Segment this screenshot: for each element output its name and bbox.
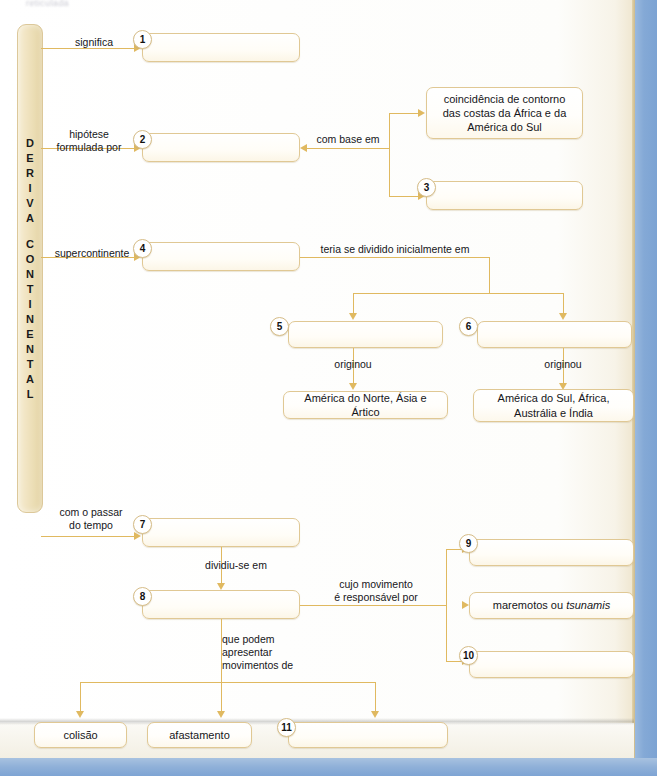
spine-letter: D (26, 136, 34, 151)
box-6-number: 6 (459, 317, 478, 336)
arrowhead-to-box8 (217, 583, 225, 590)
arrowhead-to-coincidencia (418, 109, 425, 117)
box-3-number: 3 (417, 178, 436, 197)
box-maremotos-text: maremotos ou tsunamis (493, 598, 610, 612)
connector-split-to-coincidencia (389, 113, 421, 114)
coincidencia-line-2: das costas da África e da (443, 107, 567, 119)
spine-letter: V (26, 196, 33, 211)
label-significa: significa (47, 36, 141, 49)
connector-fork-bar (353, 293, 490, 294)
box-8-number: 8 (133, 587, 152, 606)
box-7-number: 7 (133, 515, 152, 534)
box-5-number: 5 (270, 317, 289, 336)
arrowhead-to-afastamento (217, 711, 225, 718)
coincidencia-line-1: coincidência de contorno (444, 93, 566, 105)
spine-label: D E R I V A C O N T I N E N T A L (18, 25, 42, 512)
background-right (635, 0, 657, 776)
box-1-number: 1 (133, 30, 152, 49)
spine-letter: N (26, 267, 34, 282)
connector-split-to-box3 (389, 196, 421, 197)
box-afastamento[interactable]: afastamento (147, 722, 252, 748)
spine-letter: N (26, 342, 34, 357)
box-11[interactable] (288, 722, 448, 748)
label-com-base-em: com base em (302, 133, 394, 146)
arrowhead-to-box6 (559, 313, 567, 320)
box-america-sul-text: América do Sul, África,Austrália e Índia (498, 391, 610, 419)
label-originou-right: originou (533, 358, 593, 371)
spine-letter: L (27, 387, 34, 402)
box-7[interactable] (142, 518, 300, 547)
maremotos-prefix: maremotos ou (493, 599, 566, 611)
spine-letter: E (26, 151, 33, 166)
label-supercontinente: supercontinente (44, 247, 140, 260)
box-5[interactable] (288, 321, 443, 348)
box-colisao-text: colisão (63, 728, 97, 742)
label-hipotese-formulada-por: hipótese formulada por (37, 128, 141, 154)
spine-letter: T (27, 357, 34, 372)
spine-letter: I (28, 181, 31, 196)
box-afastamento-text: afastamento (169, 728, 230, 742)
connector-box8-to-right-fork (300, 605, 447, 606)
box-10[interactable] (469, 651, 634, 678)
connector-bottom-leg-afastamento (221, 682, 222, 713)
label-dividiu-se-em: dividiu-se em (191, 559, 281, 572)
arrowhead-to-america-norte (349, 383, 357, 390)
america-sul-line-1: América do Sul, África, (498, 392, 610, 404)
connector-right-fork-vertical (446, 549, 447, 661)
label-originou-left: originou (323, 358, 383, 371)
spine-letter: N (26, 312, 34, 327)
label-teria-se-dividido: teria se dividido inicialmente em (315, 243, 475, 256)
box-colisao[interactable]: colisão (34, 722, 127, 748)
connector-fork-left-leg (353, 293, 354, 315)
box-8[interactable] (142, 590, 300, 619)
label-com-o-passar-do-tempo: com o passar do tempo (44, 506, 138, 532)
connector-bottom-fork-bar (80, 682, 375, 683)
box-9-number: 9 (459, 534, 478, 553)
spine-letter: R (26, 166, 34, 181)
connector-spine-to-box7 (41, 536, 137, 537)
connector-fork-right-leg (563, 293, 564, 315)
box-america-norte-text: América do Norte, Ásia e Ártico (290, 391, 441, 419)
box-america-sul[interactable]: América do Sul, África,Austrália e Índia (473, 389, 634, 422)
connector-fork-bar-right (489, 293, 564, 294)
box-2[interactable] (142, 133, 300, 162)
arrowhead-to-maremotos (462, 601, 469, 609)
box-4[interactable] (142, 242, 300, 271)
spine-letter: C (26, 237, 34, 252)
connector-bottom-leg-box11 (375, 682, 376, 713)
connector-box2-to-split (307, 148, 389, 149)
spine-letter: I (28, 297, 31, 312)
connector-fork-drop (489, 257, 490, 293)
connector-split-vertical (389, 113, 390, 196)
spine-letter: A (26, 211, 34, 226)
box-11-number: 11 (277, 718, 296, 737)
america-sul-line-2: Austrália e Índia (514, 407, 593, 419)
spine-letter: A (26, 372, 34, 387)
spine-letter: E (26, 327, 33, 342)
coincidencia-line-3: América do Sul (467, 121, 542, 133)
arrowhead-to-box5 (349, 313, 357, 320)
cropped-top-text: reticulada (26, 0, 146, 9)
maremotos-emphasis: tsunamis (566, 599, 610, 611)
spine-letter: T (27, 282, 34, 297)
box-maremotos[interactable]: maremotos ou tsunamis (469, 592, 634, 619)
deriva-continental-spine: D E R I V A C O N T I N E N T A L (17, 24, 43, 513)
connector-bottom-leg-colisao (80, 682, 81, 713)
label-cujo-movimento: cujo movimento é responsável por (316, 578, 436, 604)
label-que-podem-apresentar: que podem apresentar movimentos de (222, 633, 332, 672)
arrowhead-to-box11 (371, 711, 379, 718)
box-2-number: 2 (133, 130, 152, 149)
box-coincidencia-text: coincidência de contornodas costas da Áf… (443, 92, 567, 134)
box-3[interactable] (426, 181, 583, 210)
box-1[interactable] (142, 33, 300, 62)
connector-box4-to-fork (300, 257, 490, 258)
box-4-number: 4 (133, 239, 152, 258)
spine-letter: O (26, 252, 35, 267)
box-coincidencia-contorno[interactable]: coincidência de contornodas costas da Áf… (426, 87, 583, 139)
box-america-norte[interactable]: América do Norte, Ásia e Ártico (283, 391, 448, 419)
box-10-number: 10 (459, 646, 478, 665)
box-9[interactable] (469, 539, 634, 566)
box-6[interactable] (477, 321, 632, 348)
diagram-page: reticulada D E R I V A C O N T I N E N T… (0, 0, 657, 776)
background-bottom (0, 758, 657, 776)
